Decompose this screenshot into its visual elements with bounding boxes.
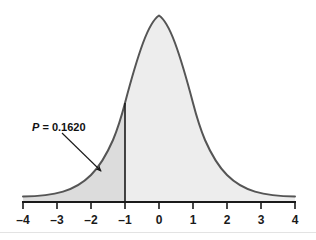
tick-label-neg4: –4 — [16, 213, 30, 227]
tick-label-pos4: 4 — [292, 213, 299, 227]
distribution-plot: –4 –3 –2 –1 0 1 2 3 4 P = 0.1620 — [0, 0, 316, 240]
x-axis-tick-labels: –4 –3 –2 –1 0 1 2 3 4 — [16, 213, 298, 227]
p-value-annotation-label: P = 0.1620 — [32, 121, 86, 133]
tick-label-neg1: –1 — [118, 213, 132, 227]
normal-curve-figure: –4 –3 –2 –1 0 1 2 3 4 P = 0.1620 — [0, 0, 316, 240]
density-fill-right — [23, 16, 295, 203]
tick-label-neg2: –2 — [84, 213, 98, 227]
tick-label-pos3: 3 — [258, 213, 265, 227]
footer-divider — [0, 232, 316, 233]
p-value-number: 0.1620 — [52, 121, 86, 133]
annotation-arrow — [62, 133, 101, 171]
equals-sign: = — [39, 121, 52, 133]
tick-label-zero: 0 — [156, 213, 163, 227]
tick-label-neg3: –3 — [50, 213, 64, 227]
tick-label-pos1: 1 — [190, 213, 197, 227]
tick-label-pos2: 2 — [224, 213, 231, 227]
